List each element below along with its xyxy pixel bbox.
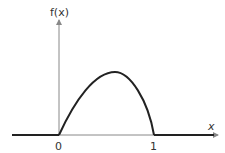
y-axis-label: f(x) <box>50 6 69 19</box>
tick-label-0: 0 <box>55 140 62 153</box>
tick-label-1: 1 <box>150 140 157 153</box>
x-axis-label: x <box>207 120 215 133</box>
function-curve <box>59 72 154 135</box>
function-plot: f(x) x 0 1 <box>0 0 225 153</box>
